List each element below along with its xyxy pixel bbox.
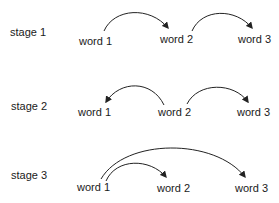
arc-stage2-word2-to-word1	[106, 86, 164, 105]
dependency-stages-diagram: stage 1 word 1 word 2 word 3 stage 2 wor…	[0, 0, 279, 203]
stage-label: stage 1	[10, 26, 46, 38]
word-label: word 3	[238, 33, 271, 45]
arc-stage1-word2-to-word3	[192, 13, 252, 31]
arc-stage2-word2-to-word3	[187, 87, 248, 104]
word-label: word 1	[79, 35, 112, 47]
word-label: word 2	[160, 33, 193, 45]
word-label: word 1	[77, 181, 110, 193]
stage-label: stage 3	[11, 169, 47, 181]
stage-label: stage 2	[11, 100, 47, 112]
arc-stage1-word1-to-word2	[104, 13, 168, 31]
word-label: word 1	[78, 106, 111, 118]
word-label: word 2	[157, 182, 190, 194]
word-label: word 3	[237, 106, 270, 118]
word-label: word 3	[235, 182, 268, 194]
arc-stage3-word1-to-word2	[106, 163, 166, 181]
arc-stage3-word1-to-word3	[101, 148, 245, 179]
word-label: word 2	[158, 106, 191, 118]
